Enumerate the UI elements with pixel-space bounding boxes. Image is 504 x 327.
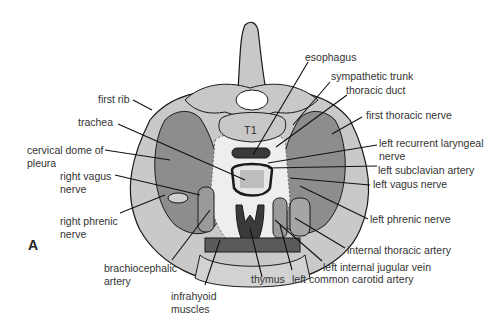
left-ijv-shape	[290, 198, 310, 236]
label-internal-thoracic: internal thoracic artery	[347, 244, 451, 256]
label-left-recurrent-line1: left recurrent laryngeal	[379, 137, 483, 149]
label-cervical-dome-line2: pleura	[27, 157, 56, 169]
spinous-process	[238, 22, 266, 90]
anatomy-figure: T1	[0, 0, 504, 327]
label-infrahyoid-line1: infrahyoid	[171, 290, 217, 302]
label-right-phrenic-line1: right phrenic	[60, 215, 118, 227]
label-left-subclavian: left subclavian artery	[378, 164, 474, 176]
label-left-phrenic: left phrenic nerve	[370, 213, 451, 225]
label-thymus: thymus	[251, 273, 285, 285]
vertebral-foramen	[236, 90, 268, 110]
label-left-common-carotid: left common carotid artery	[292, 273, 413, 285]
panel-label: A	[28, 237, 38, 253]
brachiocephalic-shape	[198, 187, 214, 232]
label-brachiocephalic-line2: artery	[104, 275, 131, 287]
label-sympathetic-trunk: sympathetic trunk	[331, 70, 413, 82]
label-left-vagus: left vagus nerve	[373, 178, 447, 190]
label-cervical-dome-line1: cervical dome of	[27, 144, 103, 156]
label-left-recurrent-line2: nerve	[379, 150, 405, 162]
label-right-vagus-line2: nerve	[60, 183, 86, 195]
label-esophagus: esophagus	[305, 51, 356, 63]
label-right-vagus-line1: right vagus	[60, 170, 111, 182]
label-thoracic-duct: thoracic duct	[346, 84, 406, 96]
esophagus-shape	[232, 148, 270, 158]
left-common-carotid-shape	[273, 198, 287, 238]
label-infrahyoid-line2: muscles	[171, 303, 210, 315]
label-first-thoracic-nerve: first thoracic nerve	[366, 109, 452, 121]
label-left-ijv: left internal jugular vein	[323, 261, 431, 273]
label-first-rib: first rib	[98, 93, 130, 105]
label-right-phrenic-line2: nerve	[60, 228, 86, 240]
label-trachea: trachea	[78, 116, 113, 128]
vertebra-label: T1	[244, 124, 257, 136]
label-brachiocephalic-line1: brachiocephalic	[104, 262, 177, 274]
